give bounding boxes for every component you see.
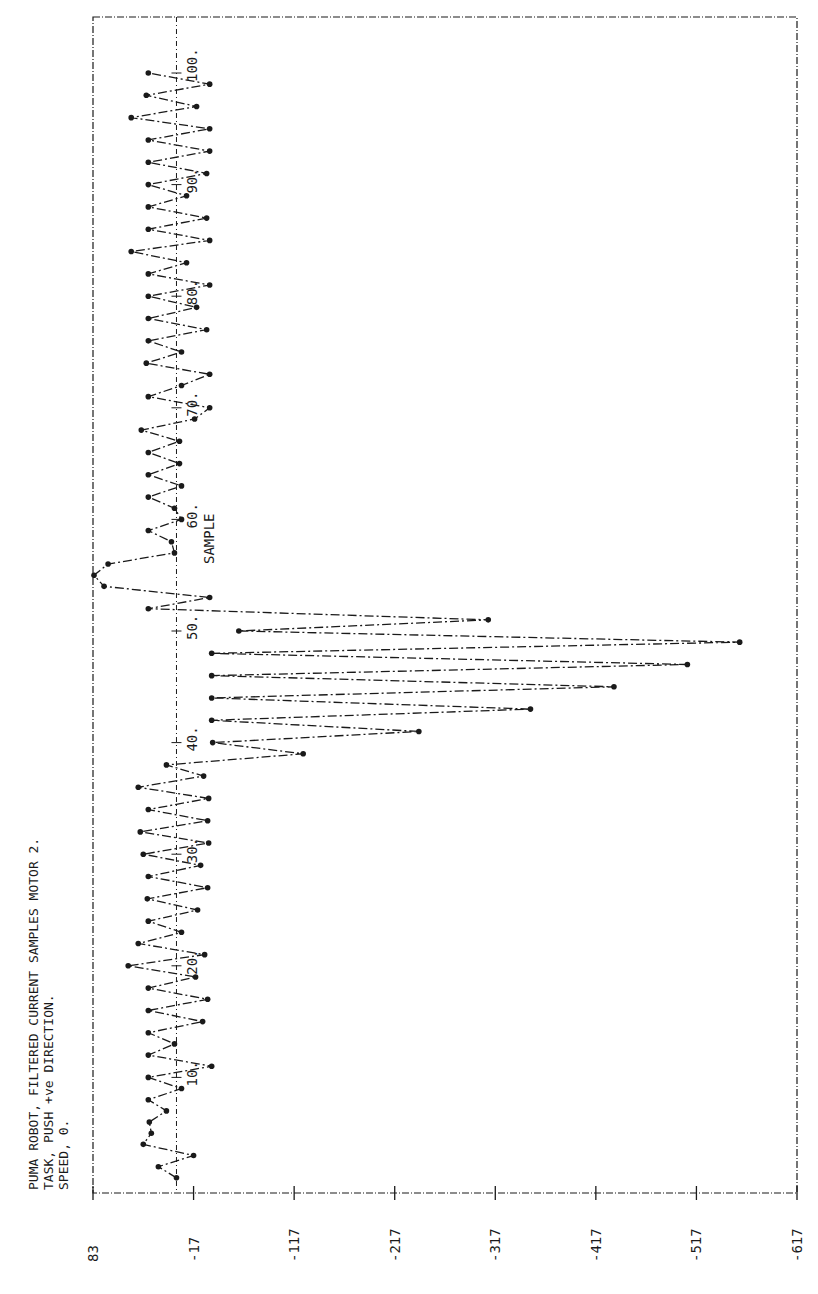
data-point-marker — [207, 81, 213, 87]
data-point-marker — [205, 818, 211, 824]
data-point-marker — [209, 717, 215, 723]
data-point-marker — [146, 226, 152, 232]
chart-title: PUMA ROBOT, FILTERED CURRENT SAMPLES MOT… — [26, 838, 41, 1190]
data-point-marker — [146, 1052, 152, 1058]
chart-subtitle-task: TASK, PUSH +ve DIRECTION. — [41, 994, 56, 1190]
data-point-marker — [202, 952, 208, 958]
data-point-marker — [194, 104, 200, 110]
chart-canvas: 83-17-117-217-317-417-517-617 10.20.30.4… — [0, 0, 818, 1294]
data-point-marker — [146, 472, 152, 478]
value-axis: 83-17-117-217-317-417-517-617 — [85, 1186, 805, 1262]
data-point-marker — [146, 394, 152, 400]
sample-tick-label: 90. — [184, 168, 200, 193]
data-point-marker — [140, 1142, 146, 1148]
data-point-marker — [146, 874, 152, 880]
data-point-marker — [207, 282, 213, 288]
data-point-marker — [205, 885, 211, 891]
data-point-marker — [146, 1075, 152, 1081]
value-tick-label: -317 — [487, 1228, 503, 1262]
data-point-marker — [101, 584, 107, 590]
data-point-marker — [145, 896, 151, 902]
data-point-marker — [146, 137, 152, 143]
data-point-marker — [177, 461, 183, 467]
data-point-marker — [105, 561, 111, 567]
data-point-marker — [206, 796, 212, 802]
sample-tick-label: 10. — [184, 1061, 200, 1086]
data-point-marker — [172, 1041, 178, 1047]
value-tick-label: 83 — [85, 1245, 101, 1262]
data-point-marker — [144, 93, 150, 99]
data-point-marker — [169, 539, 175, 545]
data-point-marker — [146, 338, 152, 344]
data-point-marker — [146, 316, 152, 322]
data-point-marker — [300, 751, 306, 757]
data-point-marker — [209, 695, 215, 701]
data-point-marker — [146, 450, 152, 456]
value-tick-label: -517 — [688, 1228, 704, 1262]
value-tick-label: -617 — [789, 1228, 805, 1262]
data-point-marker — [179, 1086, 185, 1092]
data-point-marker — [184, 260, 190, 266]
data-point-marker — [207, 595, 213, 601]
data-point-marker — [737, 639, 743, 645]
value-tick-label: -117 — [286, 1228, 302, 1262]
data-point-marker — [156, 1164, 162, 1170]
sample-tick-label: 20. — [184, 950, 200, 975]
data-point-marker — [207, 148, 213, 154]
data-point-marker — [147, 1119, 153, 1125]
data-point-marker — [146, 1008, 152, 1014]
data-point-marker — [207, 126, 213, 132]
data-point-marker — [146, 606, 152, 612]
data-point-marker — [135, 784, 141, 790]
data-point-marker — [528, 706, 534, 712]
value-tick-label: -17 — [186, 1237, 202, 1262]
data-point-marker — [209, 1063, 215, 1069]
data-point-marker — [179, 383, 185, 389]
data-point-marker — [685, 662, 691, 668]
data-point-marker — [138, 427, 144, 433]
data-point-marker — [146, 1097, 152, 1103]
data-point-marker — [172, 550, 178, 556]
data-point-marker — [146, 807, 152, 813]
data-point-marker — [179, 483, 185, 489]
data-point-marker — [140, 851, 146, 857]
data-point-marker — [236, 628, 242, 634]
data-point-marker — [205, 996, 211, 1002]
data-point-marker — [195, 907, 201, 913]
data-point-marker — [204, 215, 210, 221]
data-point-marker — [146, 918, 152, 924]
data-point-marker — [146, 494, 152, 500]
data-point-marker — [128, 249, 134, 255]
sample-tick-label: 50. — [184, 615, 200, 640]
data-point-marker — [149, 1130, 155, 1136]
data-point-marker — [611, 684, 617, 690]
data-point-marker — [128, 115, 134, 121]
data-point-marker — [174, 1175, 180, 1181]
data-point-marker — [204, 171, 210, 177]
data-point-marker — [206, 840, 212, 846]
data-point-marker — [200, 1019, 206, 1025]
data-point-marker — [172, 505, 178, 511]
chart-subtitle-speed: SPEED, 0. — [56, 1120, 71, 1190]
value-tick-label: -417 — [588, 1228, 604, 1262]
data-point-marker — [191, 1153, 197, 1159]
data-point-marker — [144, 360, 150, 366]
data-point-marker — [146, 159, 152, 165]
data-point-marker — [179, 349, 185, 355]
data-point-marker — [146, 293, 152, 299]
sample-tick-label: 100. — [184, 48, 200, 82]
data-point-marker — [207, 372, 213, 378]
sample-tick-label: 70. — [184, 392, 200, 417]
data-point-marker — [146, 271, 152, 277]
data-point-marker — [204, 327, 210, 333]
data-point-marker — [125, 963, 131, 969]
data-point-marker — [177, 438, 183, 444]
data-point-marker — [146, 1030, 152, 1036]
data-point-marker — [201, 773, 207, 779]
data-point-marker — [146, 528, 152, 534]
sample-tick-label: 80. — [184, 280, 200, 305]
data-point-marker — [91, 572, 97, 578]
data-point-marker — [164, 762, 170, 768]
sample-tick-label: 60. — [184, 503, 200, 528]
data-point-marker — [146, 70, 152, 76]
